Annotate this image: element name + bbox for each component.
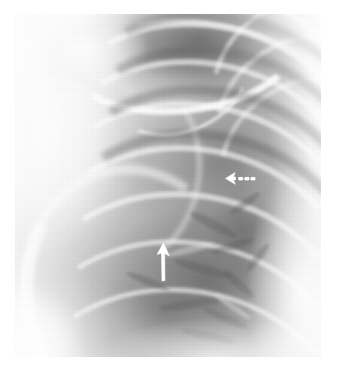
radiograph-plate	[15, 14, 321, 357]
radiograph-viewport	[0, 0, 340, 367]
